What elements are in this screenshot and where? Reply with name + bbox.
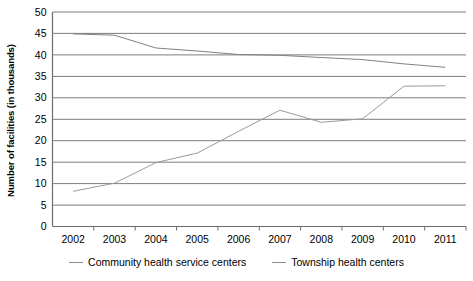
- legend-item-township: Township health centers: [272, 256, 404, 268]
- y-tick-label: 40: [35, 49, 47, 61]
- y-tick-label: 0: [41, 220, 47, 232]
- series-line-community: [73, 86, 445, 192]
- plot-area: 05101520253035404550 2002200320042005200…: [20, 6, 473, 254]
- x-tick-label: 2005: [186, 233, 210, 245]
- plot-svg: 05101520253035404550 2002200320042005200…: [20, 6, 473, 254]
- gridlines: [53, 12, 467, 227]
- y-axis-title: Number of facilities (in thousands): [0, 0, 20, 240]
- x-tick-labels: 2002200320042005200620072008200920102011: [62, 233, 457, 245]
- legend-line-icon-township: [272, 262, 286, 263]
- y-axis-title-label: Number of facilities (in thousands): [5, 44, 16, 197]
- y-tick-label: 15: [35, 156, 47, 168]
- x-tick-label: 2002: [62, 233, 86, 245]
- legend-label-township: Township health centers: [291, 256, 404, 268]
- legend-label-community: Community health service centers: [88, 256, 246, 268]
- y-tick-labels: 05101520253035404550: [35, 6, 47, 232]
- legend-item-community: Community health service centers: [69, 256, 246, 268]
- x-axis-ticks: [94, 227, 466, 231]
- x-tick-label: 2008: [310, 233, 334, 245]
- y-tick-label: 5: [41, 199, 47, 211]
- clipped-caption-strip: [0, 273, 473, 281]
- x-tick-label: 2003: [103, 233, 127, 245]
- x-tick-label: 2011: [434, 233, 457, 245]
- line-chart: Number of facilities (in thousands) 0510…: [0, 0, 473, 281]
- series-line-township: [73, 34, 445, 67]
- y-tick-label: 50: [35, 6, 47, 18]
- legend-line-icon-community: [69, 262, 83, 263]
- x-tick-label: 2010: [392, 233, 416, 245]
- x-tick-label: 2006: [227, 233, 251, 245]
- y-tick-label: 30: [35, 91, 47, 103]
- y-tick-label: 45: [35, 27, 47, 39]
- y-tick-label: 20: [35, 134, 47, 146]
- y-tick-label: 10: [35, 177, 47, 189]
- x-tick-label: 2007: [268, 233, 292, 245]
- series-lines: [73, 34, 445, 191]
- y-tick-label: 35: [35, 70, 47, 82]
- x-tick-label: 2004: [144, 233, 168, 245]
- y-tick-label: 25: [35, 113, 47, 125]
- x-tick-label: 2009: [351, 233, 375, 245]
- chart-legend: Community health service centers Townshi…: [0, 252, 473, 272]
